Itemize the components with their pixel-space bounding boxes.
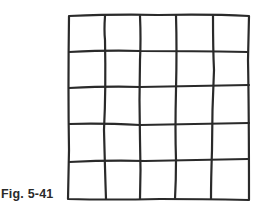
grid-line-v4 [211,16,214,199]
hand-drawn-grid [0,0,260,212]
grid-line-v2 [140,16,141,199]
grid-line-h3 [69,123,249,125]
grid-line-v1 [104,16,106,199]
grid-line-h1 [69,51,248,52]
grid-line-v3 [175,15,177,199]
grid-line-h4 [69,159,248,162]
grid-line-h2 [69,85,249,88]
figure-caption: Fig. 5-41 [1,187,54,201]
grid-border [68,15,249,200]
